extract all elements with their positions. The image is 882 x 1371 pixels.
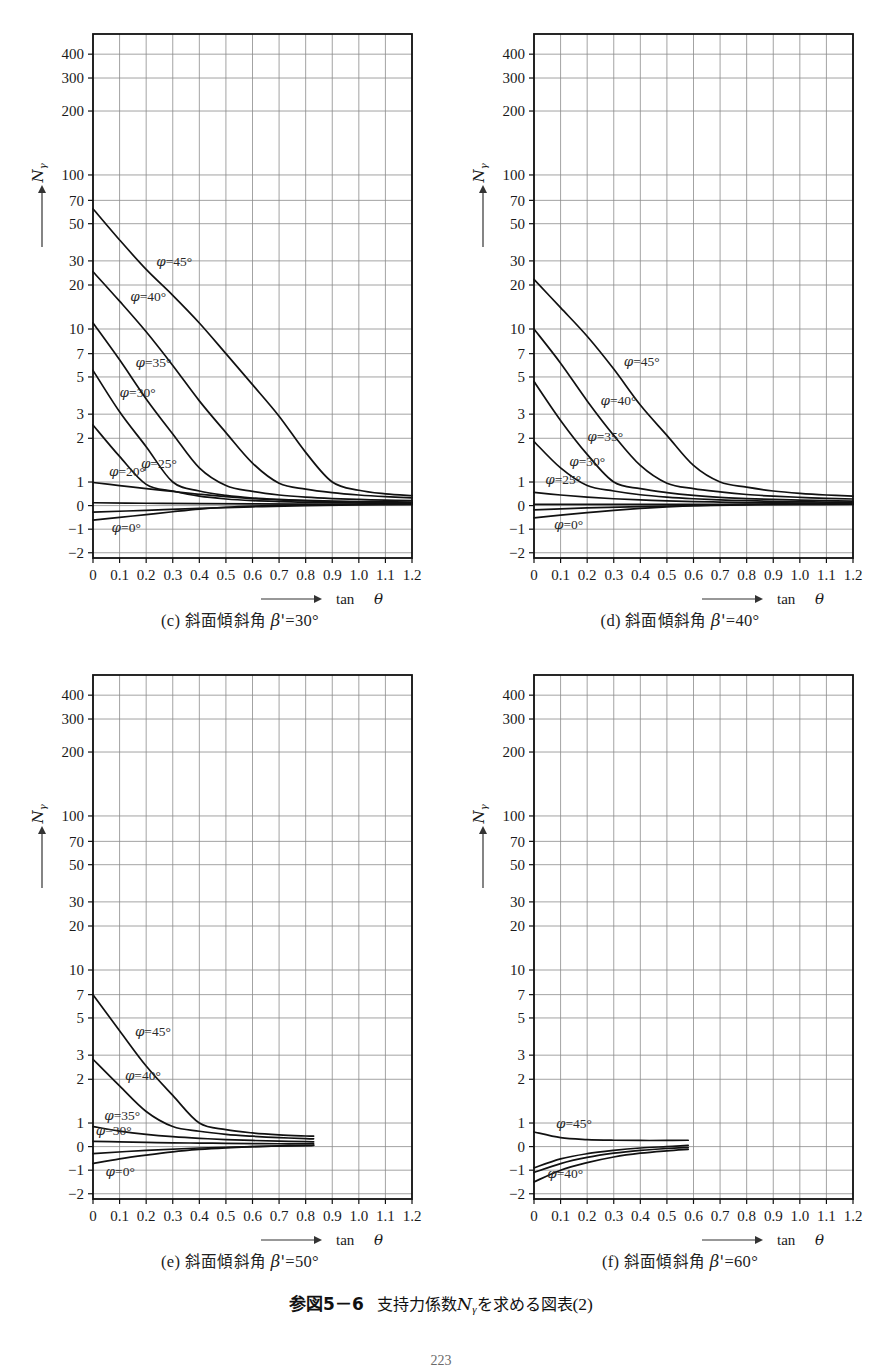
curve-label-e-1: φ=40° (125, 1067, 161, 1083)
x-tick-f-0: 0 (530, 1208, 538, 1224)
x-axis-label-f: tanθ (702, 1231, 824, 1249)
y-tick-e-8: 10 (69, 962, 84, 978)
x-tick-f-12: 1.2 (844, 1208, 863, 1224)
x-tick-d-12: 1.2 (844, 567, 863, 583)
x-axis-label-var-d: θ (815, 590, 824, 608)
x-tick-d-10: 1.0 (790, 567, 809, 583)
page-number: 223 (0, 1353, 882, 1369)
y-tick-f-2: 200 (503, 744, 526, 760)
x-tick-f-1: 0.1 (551, 1208, 570, 1224)
y-tick-e-3: 100 (62, 808, 85, 824)
figure-title-symbol: N (457, 1294, 472, 1314)
x-tick-c-0: 0 (89, 567, 97, 583)
y-tick-c-14: 0 (77, 498, 85, 514)
y-tick-c-2: 200 (62, 103, 85, 119)
caption-f-eq: = (724, 1252, 734, 1271)
y-tick-e-15: −1 (68, 1162, 84, 1178)
svg-text:Nγ: Nγ (470, 804, 489, 824)
y-axis-label-d: Nγ (470, 163, 489, 247)
y-tick-d-16: −2 (509, 545, 525, 561)
y-tick-f-8: 10 (510, 962, 525, 978)
x-tick-labels-c: 00.10.20.30.40.50.60.70.80.91.01.11.2 (89, 567, 421, 583)
caption-d: (d) 斜面傾斜角 β'=40° (500, 608, 860, 631)
caption-d-text: 斜面傾斜角 (625, 612, 707, 630)
x-tick-labels-f: 00.10.20.30.40.50.60.70.80.91.01.11.2 (530, 1208, 862, 1224)
y-tick-d-9: 7 (518, 346, 526, 362)
chart-e: 4003002001007050302010753210−1−200.10.20… (0, 641, 441, 1282)
x-tick-d-11: 1.1 (817, 567, 836, 583)
x-tick-c-8: 0.8 (296, 567, 315, 583)
x-tick-c-2: 0.2 (137, 567, 156, 583)
y-tick-f-9: 7 (518, 987, 526, 1003)
curve-labels-f: φ=45°φ=40° (547, 1115, 592, 1180)
curve-label-d-2: φ=35° (587, 428, 623, 444)
x-tick-f-5: 0.5 (658, 1208, 677, 1224)
y-tick-f-11: 3 (518, 1047, 526, 1063)
y-axis-label-c: Nγ (29, 163, 48, 247)
y-tick-e-7: 20 (69, 918, 84, 934)
y-tick-labels-e: 4003002001007050302010753210−1−2 (62, 687, 85, 1202)
x-tick-f-6: 0.6 (684, 1208, 703, 1224)
y-tick-c-4: 70 (69, 193, 84, 209)
y-tick-d-14: 0 (518, 498, 526, 514)
x-tick-c-10: 1.0 (349, 567, 368, 583)
x-tick-e-4: 0.4 (190, 1208, 209, 1224)
x-axis-label-text-c: tan (336, 591, 355, 607)
y-tick-e-0: 400 (62, 687, 85, 703)
chart-c: 4003002001007050302010753210−1−200.10.20… (0, 0, 441, 641)
y-tick-c-8: 10 (69, 321, 84, 337)
curve-label-c-4: φ=25° (141, 455, 177, 471)
svg-text:Nγ: Nγ (29, 163, 48, 183)
caption-c-text: 斜面傾斜角 (185, 612, 267, 630)
y-tick-c-0: 400 (62, 46, 85, 62)
y-tick-d-3: 100 (503, 167, 526, 183)
x-axis-label-var-e: θ (374, 1231, 383, 1249)
y-tick-c-12: 2 (77, 430, 85, 446)
curve-label-c-5: φ=20° (109, 463, 145, 479)
caption-c: (c) 斜面傾斜角 β'=30° (60, 608, 420, 631)
y-tick-f-16: −2 (509, 1186, 525, 1202)
y-tick-d-5: 50 (510, 216, 525, 232)
x-tick-f-2: 0.2 (578, 1208, 597, 1224)
x-tick-e-5: 0.5 (217, 1208, 236, 1224)
x-tick-c-5: 0.5 (217, 567, 236, 583)
chart-svg-f: 4003002001007050302010753210−1−200.10.20… (441, 641, 882, 1282)
curve-label-c-0: φ=45° (156, 253, 192, 269)
x-tick-e-8: 0.8 (296, 1208, 315, 1224)
curve-label-d-0: φ=45° (624, 353, 660, 369)
y-tick-d-13: 1 (518, 474, 526, 490)
caption-d-eq: = (726, 611, 736, 630)
x-tick-e-6: 0.6 (243, 1208, 262, 1224)
y-tick-e-11: 3 (77, 1047, 85, 1063)
curve-label-c-2: φ=35° (136, 354, 172, 370)
y-tick-c-15: −1 (68, 521, 84, 537)
caption-e-var: β' (271, 1252, 286, 1271)
caption-e-text: 斜面傾斜角 (185, 1253, 267, 1271)
y-tick-c-13: 1 (77, 474, 85, 490)
x-tick-f-4: 0.4 (631, 1208, 650, 1224)
x-tick-c-1: 0.1 (110, 567, 129, 583)
curve-label-c-3: φ=30° (120, 384, 156, 400)
y-tick-e-6: 30 (69, 894, 84, 910)
chart-svg-e: 4003002001007050302010753210−1−200.10.20… (0, 641, 441, 1282)
caption-e-value: 50° (295, 1252, 319, 1271)
x-axis-label-text-f: tan (777, 1232, 796, 1248)
y-tick-f-10: 5 (518, 1010, 526, 1026)
curve-label-d-3: φ=30° (569, 453, 605, 469)
curve-label-d-1: φ=40° (601, 392, 637, 408)
y-tick-c-11: 3 (77, 406, 85, 422)
y-tick-d-11: 3 (518, 406, 526, 422)
y-tick-f-0: 400 (503, 687, 526, 703)
y-tick-e-2: 200 (62, 744, 85, 760)
figure-number: 参図5－6 (289, 1294, 364, 1314)
y-tick-d-7: 20 (510, 277, 525, 293)
figure-page: 4003002001007050302010753210−1−200.10.20… (0, 0, 882, 1371)
y-tick-d-12: 2 (518, 430, 526, 446)
x-tick-f-8: 0.8 (737, 1208, 756, 1224)
x-tick-e-3: 0.3 (163, 1208, 182, 1224)
y-tick-e-10: 5 (77, 1010, 85, 1026)
x-tick-e-9: 0.9 (323, 1208, 342, 1224)
caption-d-letter: (d) (601, 611, 621, 630)
grid-e (93, 675, 412, 1199)
y-tick-d-4: 70 (510, 193, 525, 209)
